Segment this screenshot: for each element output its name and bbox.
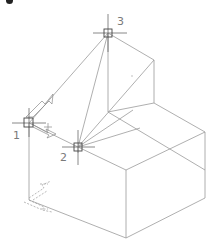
lower-box-edges	[29, 103, 205, 238]
point-label-2: 2	[60, 152, 67, 163]
point-label-3: 3	[117, 16, 124, 27]
ucs-arrow-icon	[26, 94, 56, 138]
drawing-canvas[interactable]: 3 1 2	[0, 0, 213, 248]
isometric-step-model	[0, 0, 213, 248]
construction-lines	[78, 33, 140, 147]
stray-dot	[131, 75, 132, 76]
upper-step-edges	[29, 33, 154, 200]
point-label-1: 1	[13, 130, 20, 141]
